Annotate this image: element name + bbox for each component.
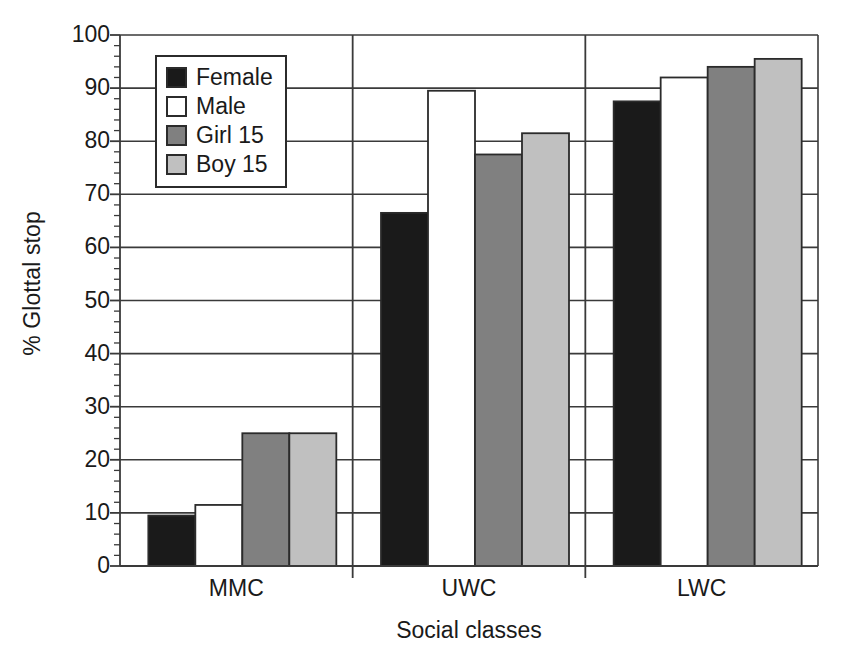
- y-tick-label-80: 80: [50, 129, 110, 152]
- x-tick-label-lwc: LWC: [585, 575, 818, 602]
- bar-lwc-boy-15: [755, 59, 802, 566]
- legend-item-male: Male: [166, 92, 273, 121]
- y-axis-tick-labels: 0102030405060708090100: [36, 0, 110, 655]
- legend-swatch-icon: [166, 67, 187, 88]
- bar-lwc-female: [614, 101, 661, 566]
- bar-mmc-girl-15: [242, 433, 289, 566]
- x-tick-label-mmc: MMC: [120, 575, 353, 602]
- y-tick-label-10: 10: [50, 501, 110, 524]
- bar-uwc-female: [381, 213, 428, 566]
- bar-uwc-boy-15: [522, 133, 569, 566]
- legend-swatch-icon: [166, 96, 187, 117]
- bar-mmc-female: [148, 516, 195, 566]
- chart-figure: % Glottal stop 0102030405060708090100 MM…: [0, 0, 845, 655]
- legend-label: Girl 15: [196, 124, 264, 147]
- bar-uwc-girl-15: [475, 154, 522, 566]
- bar-lwc-girl-15: [708, 67, 755, 566]
- legend-label: Female: [196, 66, 273, 89]
- x-axis-title: Social classes: [120, 617, 818, 644]
- x-tick-label-uwc: UWC: [353, 575, 586, 602]
- legend-label: Male: [196, 95, 246, 118]
- y-tick-label-40: 40: [50, 342, 110, 365]
- legend-swatch-icon: [166, 154, 187, 175]
- y-tick-label-20: 20: [50, 448, 110, 471]
- y-tick-label-100: 100: [50, 23, 110, 46]
- bar-uwc-male: [428, 91, 475, 566]
- bar-lwc-male: [661, 77, 708, 566]
- y-tick-label-50: 50: [50, 289, 110, 312]
- bar-mmc-male: [195, 505, 242, 566]
- y-tick-label-90: 90: [50, 76, 110, 99]
- y-tick-label-30: 30: [50, 395, 110, 418]
- legend-item-girl-15: Girl 15: [166, 121, 273, 150]
- chart-legend: FemaleMaleGirl 15Boy 15: [155, 55, 287, 188]
- bar-mmc-boy-15: [289, 433, 336, 566]
- y-tick-label-0: 0: [50, 554, 110, 577]
- legend-swatch-icon: [166, 125, 187, 146]
- y-tick-label-60: 60: [50, 235, 110, 258]
- legend-label: Boy 15: [196, 153, 268, 176]
- y-tick-label-70: 70: [50, 182, 110, 205]
- legend-item-female: Female: [166, 63, 273, 92]
- legend-item-boy-15: Boy 15: [166, 150, 273, 179]
